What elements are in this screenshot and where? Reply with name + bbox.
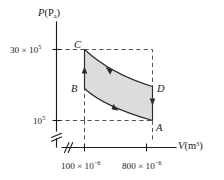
y-tick-label-high-exp: 5	[38, 43, 41, 50]
pv-diagram-canvas: P(Pa) V(m3) 30 × 105 105 100 × 10−6 800 …	[0, 0, 224, 180]
x-tick-label-low-exp: −6	[94, 159, 101, 166]
y-tick-label-low-main: 10	[33, 116, 43, 126]
point-label-B: B	[71, 83, 78, 94]
x-tick-label-low: 100 × 10−6	[61, 159, 100, 171]
y-tick-label-high: 30 × 105	[10, 43, 41, 55]
y-tick-label-low-exp: 5	[42, 114, 45, 121]
x-tick-label-high-exp: −6	[155, 159, 162, 166]
point-label-C: C	[74, 39, 82, 50]
x-axis-title: V(m3)	[178, 140, 203, 152]
y-axis-title-unit-close: )	[57, 7, 61, 19]
x-tick-label-high: 800 × 10−6	[122, 159, 161, 171]
point-label-A: A	[155, 122, 163, 133]
y-axis-title: P(Pa)	[37, 7, 61, 19]
y-tick-label-low: 105	[33, 114, 45, 126]
y-axis-title-unit-open: (P	[44, 7, 53, 19]
point-label-D: D	[156, 83, 165, 94]
x-axis-title-unit-close: )	[199, 140, 203, 152]
x-axis-title-unit-open: (m	[184, 140, 196, 152]
cycle-shaded-area	[85, 50, 153, 121]
x-tick-label-low-main: 100 × 10	[61, 161, 94, 171]
pv-diagram-figure: P(Pa) V(m3) 30 × 105 105 100 × 10−6 800 …	[0, 0, 224, 180]
x-tick-label-high-main: 800 × 10	[122, 161, 155, 171]
y-tick-label-high-main: 30 × 10	[10, 45, 39, 55]
